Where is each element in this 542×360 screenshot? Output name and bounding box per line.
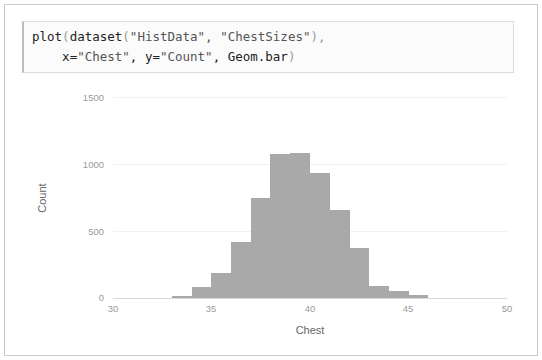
bar-40 <box>310 173 330 298</box>
bar-35 <box>211 273 231 298</box>
bar-42 <box>349 248 369 298</box>
xtick-label-45: 45 <box>388 303 428 314</box>
gridline-1500 <box>113 97 507 98</box>
y-axis-title: Count <box>36 178 48 218</box>
gridline-1000 <box>113 164 507 165</box>
bar-39 <box>290 153 310 298</box>
bar-43 <box>369 286 389 298</box>
screenshot-root: plot(dataset("HistData", "ChestSizes"), … <box>0 0 542 360</box>
ytick-label-1000: 1000 <box>62 159 104 170</box>
ytick-label-0: 0 <box>62 292 104 303</box>
bar-36 <box>231 242 251 298</box>
xtick-label-30: 30 <box>93 303 133 314</box>
bar-37 <box>251 198 271 298</box>
x-axis-title: Chest <box>260 324 360 336</box>
ytick-label-500: 500 <box>62 226 104 237</box>
bar-41 <box>330 210 350 298</box>
ytick-label-1500: 1500 <box>62 92 104 103</box>
xtick-label-35: 35 <box>191 303 231 314</box>
xtick-label-40: 40 <box>290 303 330 314</box>
x-axis-line <box>113 298 507 299</box>
bar-44 <box>389 291 409 298</box>
xtick-label-50: 50 <box>487 303 527 314</box>
bar-34 <box>192 287 212 298</box>
bar-38 <box>270 154 290 298</box>
histogram-plot: 1500 1000 500 0 Count 30 35 40 45 50 Che… <box>0 0 542 360</box>
